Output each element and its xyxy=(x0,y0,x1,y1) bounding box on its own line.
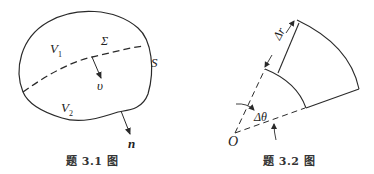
label-normal: n xyxy=(128,137,135,150)
polar-element-diagram xyxy=(187,0,374,174)
normal-arrow xyxy=(121,111,130,134)
label-origin: O xyxy=(228,135,238,149)
label-delta-theta: Δθ xyxy=(254,111,267,123)
control-volume-diagram xyxy=(0,0,187,174)
label-v2: V2 xyxy=(61,101,73,118)
outer-arc xyxy=(297,20,359,89)
label-v1: V1 xyxy=(50,42,62,59)
caption-fig-3-1: 题 3.1 图 xyxy=(66,152,118,168)
dr-arrow-bottom xyxy=(265,55,272,67)
dtheta-arrow-upper xyxy=(236,104,254,110)
label-velocity: υ xyxy=(97,79,103,92)
velocity-arrow xyxy=(92,57,101,78)
lower-radial-edge xyxy=(306,89,359,108)
figure-3-2: Δr Δθ O 题 3.2 图 xyxy=(187,0,374,174)
label-s: S xyxy=(151,56,158,69)
caption-fig-3-2: 题 3.2 图 xyxy=(263,152,315,168)
surface-s-outline xyxy=(19,11,152,120)
figure-3-1: V1 Σ S υ V2 n 题 3.1 图 xyxy=(0,0,187,174)
label-sigma: Σ xyxy=(101,35,108,47)
dtheta-arrow-lower xyxy=(274,124,276,140)
interface-sigma-dashed xyxy=(23,46,143,92)
inner-arc xyxy=(265,69,306,108)
